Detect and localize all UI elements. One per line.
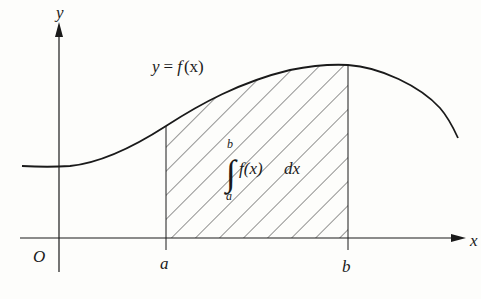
integral-lower-limit: a [226,189,232,203]
integral-diagram: y x O a b y=f(x) b ∫ a f(x) dx [0,0,481,299]
origin-label: O [33,247,45,266]
x-axis-label: x [469,231,478,250]
svg-text:y=f(x): y=f(x) [150,57,204,76]
integral-integrand: f(x) [239,159,263,178]
y-axis-label: y [54,3,64,22]
lower-bound-label: a [160,254,169,273]
integral-upper-limit: b [227,137,233,151]
y-axis [55,22,63,272]
diagram-svg: y x O a b y=f(x) b ∫ a f(x) dx [0,0,481,299]
x-axis-arrow-icon [451,234,466,242]
integral-differential: dx [284,159,301,178]
curve-label: y=f(x) [150,57,204,76]
upper-bound-label: b [342,257,351,276]
hatched-region [160,55,355,245]
y-axis-arrow-icon [55,22,63,37]
